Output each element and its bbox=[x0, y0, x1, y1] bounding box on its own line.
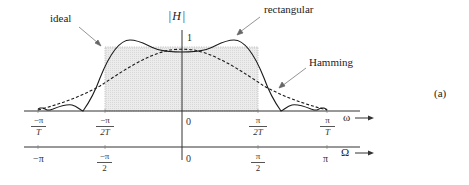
Omega-tick-pi-over-2: π 2 bbox=[251, 152, 265, 173]
Omega-tick-pi: π bbox=[323, 154, 328, 164]
rectangular-label: rectangular bbox=[264, 4, 313, 15]
omega-tick-zero: 0 bbox=[186, 117, 191, 127]
panel-label: (a) bbox=[434, 88, 446, 99]
omega-tick-neg-pi-over-T: −π T bbox=[31, 116, 46, 137]
y-axis-label: |H| bbox=[168, 10, 186, 22]
omega-tick-pi-over-2T: π 2T bbox=[249, 116, 267, 137]
hamming-label: Hamming bbox=[309, 57, 353, 68]
Omega-tick-neg-pi-over-2: −π 2 bbox=[97, 152, 112, 173]
Omega-symbol: Ω bbox=[341, 147, 349, 158]
omega-tick-neg-pi-over-2T: −π 2T bbox=[96, 116, 114, 137]
filter-response-diagram bbox=[0, 0, 469, 185]
Omega-tick-neg-pi: −π bbox=[33, 154, 44, 164]
Omega-axis bbox=[24, 147, 374, 156]
unity-label: 1 bbox=[187, 33, 192, 43]
omega-tick-pi-over-T: π T bbox=[320, 116, 335, 137]
ideal-label: ideal bbox=[50, 13, 71, 24]
omega-symbol: ω bbox=[343, 112, 350, 123]
Omega-tick-zero: 0 bbox=[186, 154, 191, 164]
